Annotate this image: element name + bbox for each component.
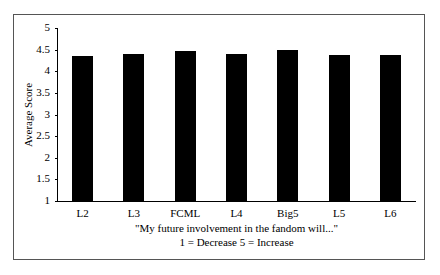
x-tick-label: Big5 — [268, 207, 308, 219]
y-tick-label: 4 — [26, 64, 50, 76]
y-tick-mark — [55, 115, 58, 116]
bar-l2 — [72, 56, 93, 201]
x-tick-label: L2 — [63, 207, 103, 219]
y-tick-mark — [55, 201, 58, 202]
x-tick-label: L6 — [370, 207, 410, 219]
y-tick-label: 2.5 — [26, 129, 50, 141]
bar-big5 — [277, 50, 298, 201]
y-tick-label: 5 — [26, 21, 50, 33]
bar-l3 — [123, 54, 144, 201]
bar-l6 — [380, 55, 401, 201]
x-tick-label: FCML — [165, 207, 205, 219]
y-tick-label: 4.5 — [26, 43, 50, 55]
y-tick-mark — [55, 179, 58, 180]
x-axis-scale-note: 1 = Decrease 5 = Increase — [57, 236, 416, 248]
y-tick-label: 1 — [26, 194, 50, 206]
x-axis-line — [57, 201, 416, 202]
y-tick-label: 2 — [26, 151, 50, 163]
y-tick-mark — [55, 28, 58, 29]
x-axis-label: "My future involvement in the fandom wil… — [57, 222, 416, 234]
bar-chart: Average Score 54.543.532.521.51 L2L3FCML… — [0, 0, 440, 275]
y-tick-mark — [55, 71, 58, 72]
y-tick-mark — [55, 136, 58, 137]
y-tick-label: 3 — [26, 108, 50, 120]
x-tick-label: L5 — [319, 207, 359, 219]
x-tick-label: L4 — [217, 207, 257, 219]
y-tick-label: 1.5 — [26, 172, 50, 184]
y-tick-mark — [55, 50, 58, 51]
x-tick-label: L3 — [114, 207, 154, 219]
bar-l4 — [226, 54, 247, 201]
bar-fcml — [175, 51, 196, 201]
bar-l5 — [329, 55, 350, 201]
y-tick-mark — [55, 158, 58, 159]
y-tick-label: 3.5 — [26, 86, 50, 98]
y-tick-mark — [55, 93, 58, 94]
